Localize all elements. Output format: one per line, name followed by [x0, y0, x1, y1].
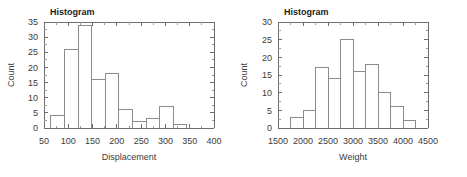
x-axis-title: Weight [339, 152, 367, 162]
histogram-bar [366, 64, 379, 128]
y-tick-label: 30 [262, 17, 272, 27]
histogram-bar [64, 49, 78, 128]
x-tick-label: 300 [158, 136, 173, 146]
y-tick-label: 10 [262, 88, 272, 98]
histogram-bar [316, 68, 329, 128]
x-axis-title: Displacement [102, 152, 157, 162]
histogram-bar [378, 93, 391, 128]
x-tick-label: 3500 [368, 136, 388, 146]
x-tick-label: 150 [85, 136, 100, 146]
y-tick-label: 5 [33, 108, 38, 118]
x-tick-label: 250 [134, 136, 149, 146]
y-tick-label: 35 [28, 17, 38, 27]
y-tick-label: 0 [267, 123, 272, 133]
histogram-bar [132, 122, 146, 128]
y-tick-label: 15 [28, 78, 38, 88]
histogram-figure: Histogram5010015020025030035040005101520… [0, 0, 467, 177]
y-tick-label: 30 [28, 32, 38, 42]
histogram-bar [403, 121, 416, 128]
histogram-bar [51, 116, 65, 128]
x-tick-label: 3000 [343, 136, 363, 146]
histogram-bar [328, 79, 341, 128]
chart-panel-displacement: Histogram5010015020025030035040005101520… [0, 0, 233, 177]
y-tick-label: 20 [28, 63, 38, 73]
chart-title: Histogram [284, 7, 329, 17]
x-tick-label: 200 [109, 136, 124, 146]
histogram-bar [391, 107, 404, 128]
x-tick-label: 100 [61, 136, 76, 146]
histogram-bar [353, 71, 366, 128]
x-tick-label: 350 [182, 136, 197, 146]
histogram-bar [160, 107, 174, 128]
x-tick-label: 400 [206, 136, 221, 146]
x-tick-label: 4000 [393, 136, 413, 146]
chart-title: Histogram [50, 7, 95, 17]
histogram-bar [119, 110, 133, 128]
y-tick-label: 15 [262, 70, 272, 80]
y-tick-label: 20 [262, 53, 272, 63]
histogram-bar [92, 80, 106, 128]
histogram-bar [303, 110, 316, 128]
weight-histogram-svg: Histogram1500200025003000350040004500051… [233, 0, 467, 177]
y-tick-label: 5 [267, 106, 272, 116]
y-tick-label: 25 [28, 47, 38, 57]
chart-panel-weight: Histogram1500200025003000350040004500051… [233, 0, 466, 177]
y-tick-label: 25 [262, 35, 272, 45]
histogram-bar [78, 25, 92, 128]
x-tick-label: 2000 [293, 136, 313, 146]
y-axis-title: Count [239, 63, 249, 88]
y-tick-label: 10 [28, 93, 38, 103]
displacement-histogram-svg: Histogram5010015020025030035040005101520… [0, 0, 233, 177]
x-tick-label: 2500 [318, 136, 338, 146]
x-tick-label: 50 [39, 136, 49, 146]
x-tick-label: 1500 [268, 136, 288, 146]
y-tick-label: 0 [33, 123, 38, 133]
y-axis-title: Count [6, 63, 16, 88]
x-tick-label: 4500 [418, 136, 438, 146]
histogram-bar [105, 73, 119, 128]
histogram-bar [291, 117, 304, 128]
histogram-bar [341, 40, 354, 128]
